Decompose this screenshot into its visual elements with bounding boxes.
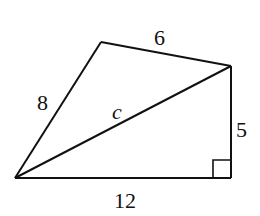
label-diagonal-ac: c [112, 99, 122, 124]
label-side-ab: 8 [37, 90, 48, 115]
diagram-canvas: 8 6 5 12 c [0, 0, 260, 216]
label-side-bc: 6 [154, 25, 165, 50]
diagonal-ac [15, 66, 231, 178]
side-bc [101, 42, 231, 66]
label-side-da: 12 [114, 188, 136, 213]
quadrilateral-diagram: 8 6 5 12 c [0, 0, 260, 216]
side-ab [15, 42, 101, 178]
right-angle-marker [213, 160, 231, 178]
label-side-cd: 5 [236, 117, 247, 142]
